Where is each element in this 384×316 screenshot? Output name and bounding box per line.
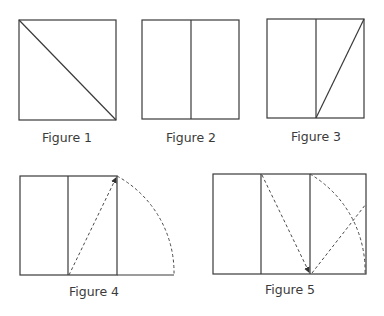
figure-5-rectangle	[213, 174, 366, 274]
figure-3-half-diagonal	[316, 19, 364, 118]
figure-5-dashed-diagonal-arrow	[262, 175, 309, 272]
figure-3	[267, 19, 364, 118]
figure-1	[19, 20, 116, 120]
figure-1-caption: Figure 1	[42, 130, 92, 145]
figure-5	[213, 174, 366, 274]
figure-4-dashed-diagonal-arrow	[69, 178, 116, 275]
figure-4-caption: Figure 4	[69, 284, 119, 299]
figure-5-dashed-diagonal-2	[312, 204, 366, 273]
figure-4-dashed-arc	[117, 176, 174, 275]
diagram-canvas	[0, 0, 384, 316]
figure-2	[142, 20, 239, 119]
figure-1-diagonal	[19, 20, 116, 120]
figure-5-dashed-arc	[310, 174, 365, 274]
figure-5-caption: Figure 5	[265, 282, 315, 297]
figure-3-caption: Figure 3	[291, 129, 341, 144]
figure-2-caption: Figure 2	[166, 130, 216, 145]
figure-4	[20, 176, 174, 275]
